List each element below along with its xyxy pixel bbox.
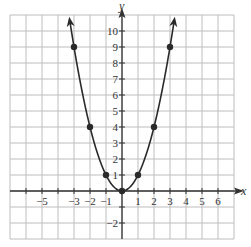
x-tick-label: 5 (199, 195, 205, 207)
data-point (87, 124, 93, 130)
x-tick-label: 3 (167, 195, 173, 207)
y-tick-label: 7 (113, 73, 119, 85)
data-point (135, 172, 141, 178)
data-point (71, 44, 77, 50)
y-tick-label: 10 (107, 25, 119, 37)
y-tick-label: 9 (113, 41, 119, 53)
x-tick-label: 2 (151, 195, 157, 207)
data-point (119, 188, 125, 194)
data-point (151, 124, 157, 130)
x-tick-label: 4 (183, 195, 189, 207)
x-tick-label: 1 (135, 195, 141, 207)
x-tick-label: −3 (68, 195, 80, 207)
y-tick-label: −2 (106, 217, 118, 229)
y-tick-label: 3 (113, 137, 119, 149)
y-tick-label: 8 (113, 57, 119, 69)
x-axis-label: x (240, 184, 247, 198)
data-point (103, 172, 109, 178)
y-tick-label: 4 (113, 121, 119, 133)
y-axis-label: y (118, 0, 125, 13)
x-tick-label: −1 (100, 195, 112, 207)
x-tick-label: 6 (215, 195, 221, 207)
y-tick-label: 5 (113, 105, 119, 117)
x-tick-label: −2 (84, 195, 96, 207)
y-tick-label: 1 (113, 169, 119, 181)
y-tick-label: 2 (113, 153, 119, 165)
data-point (167, 44, 173, 50)
x-tick-label: −5 (36, 195, 48, 207)
parabola-graph: −5−3−2−112345610987654321−2 x y (0, 0, 251, 247)
y-tick-label: 6 (113, 89, 119, 101)
